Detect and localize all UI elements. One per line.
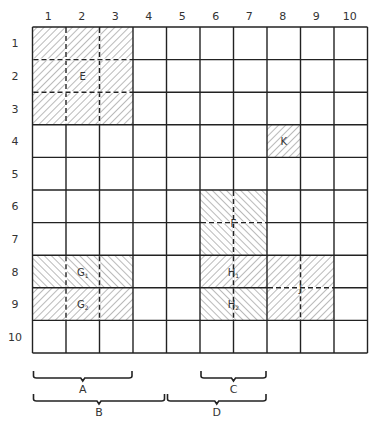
row-label: 7 bbox=[12, 233, 19, 246]
row-label: 6 bbox=[12, 200, 19, 213]
bracket-label-a: A bbox=[79, 383, 87, 396]
bracket-b: B bbox=[34, 394, 165, 419]
column-label: 5 bbox=[179, 10, 186, 23]
brackets: ACBD bbox=[34, 371, 267, 419]
region-label-f: F bbox=[231, 218, 237, 229]
column-label: 10 bbox=[343, 10, 357, 23]
bracket-d: D bbox=[168, 394, 267, 419]
column-label: 6 bbox=[212, 10, 219, 23]
region-label-k: K bbox=[280, 136, 287, 147]
region-label-e: E bbox=[80, 71, 86, 82]
bracket-label-d: D bbox=[213, 406, 221, 419]
row-label: 9 bbox=[12, 298, 19, 311]
column-label: 3 bbox=[112, 10, 119, 23]
row-label: 4 bbox=[12, 135, 19, 148]
row-label: 3 bbox=[12, 103, 19, 116]
region-label-j: J bbox=[298, 283, 302, 294]
column-label: 1 bbox=[45, 10, 52, 23]
column-label: 8 bbox=[279, 10, 286, 23]
column-label: 4 bbox=[145, 10, 152, 23]
bracket-a: A bbox=[34, 371, 133, 396]
column-label: 9 bbox=[313, 10, 320, 23]
row-label: 1 bbox=[12, 37, 19, 50]
row-label: 5 bbox=[12, 168, 19, 181]
row-label: 8 bbox=[12, 266, 19, 279]
bracket-c: C bbox=[201, 371, 266, 396]
bracket-label-b: B bbox=[95, 406, 103, 419]
bracket-label-c: C bbox=[230, 383, 238, 396]
row-label: 2 bbox=[12, 70, 19, 83]
grid-diagram: 1234567891012345678910 EKFG1G2H1H2J ACBD bbox=[0, 0, 379, 432]
row-label: 10 bbox=[8, 331, 22, 344]
column-label: 7 bbox=[246, 10, 253, 23]
column-label: 2 bbox=[78, 10, 85, 23]
